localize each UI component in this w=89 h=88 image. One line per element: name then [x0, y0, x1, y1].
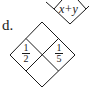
right-denominator: 5 [53, 54, 65, 64]
right-numerator: 1 [53, 43, 65, 53]
previous-bottom-cell-value: x+y [59, 3, 78, 15]
problem-label: d. [2, 18, 13, 33]
right-cell-fraction: 1 5 [53, 43, 65, 64]
bottom-cell [36, 66, 48, 76]
left-cell-fraction: 1 2 [20, 43, 32, 64]
left-denominator: 2 [20, 54, 32, 64]
top-cell [36, 34, 48, 44]
left-numerator: 1 [20, 43, 32, 53]
